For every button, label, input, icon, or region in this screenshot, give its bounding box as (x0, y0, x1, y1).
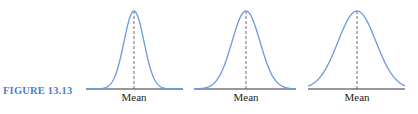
panel-1-narrow-curve (86, 11, 183, 89)
panel-2-medium-curve (194, 11, 296, 89)
mean-label-3: Mean (344, 91, 369, 103)
panel-3-wide-curve (308, 11, 405, 89)
bell-curve (308, 11, 405, 86)
mean-label-1: Mean (121, 91, 146, 103)
mean-label-2: Mean (233, 91, 258, 103)
bell-curve (86, 11, 183, 89)
bell-curve (194, 11, 296, 89)
